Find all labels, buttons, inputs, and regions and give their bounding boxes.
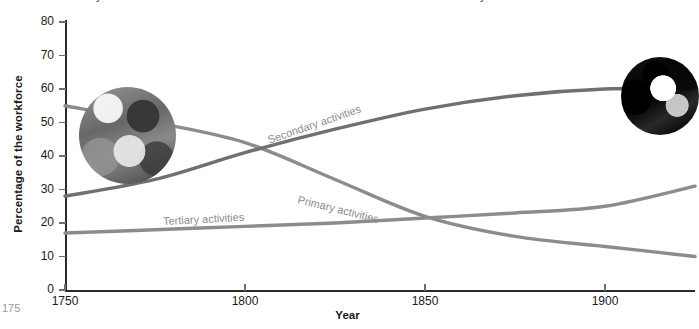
agriculture-photo <box>79 87 176 184</box>
factory-worker-photo-image <box>621 57 699 135</box>
factory-worker-photo <box>621 57 699 135</box>
agriculture-photo-image <box>79 87 176 184</box>
series-line-tertiary <box>65 186 695 233</box>
